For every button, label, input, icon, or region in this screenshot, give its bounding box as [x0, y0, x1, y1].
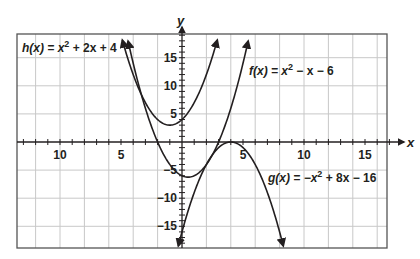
y-tick-label: 5: [170, 107, 177, 121]
h-function-label: h(x) = x2 + 2x + 4: [22, 39, 117, 55]
x-tick-label: 5: [118, 148, 125, 162]
f-function-label: f(x) = x2 − x − 6: [249, 62, 334, 78]
y-axis-label: y: [176, 13, 185, 28]
f-curve: [128, 41, 248, 177]
x-tick-label: 10: [53, 148, 67, 162]
x-tick-label: 10: [297, 148, 311, 162]
function-graph: 1055101515105−5−10−15 x y h(x) = x2 + 2x…: [0, 0, 420, 259]
y-tick-label: 15: [164, 51, 178, 65]
x-axis-label: x: [406, 135, 415, 150]
y-tick-label: −10: [157, 191, 178, 205]
y-tick-label: 10: [164, 79, 178, 93]
y-tick-label: −15: [157, 219, 178, 233]
x-tick-label: 15: [358, 148, 372, 162]
g-function-label: g(x) = −x2 + 8x − 16: [267, 169, 377, 185]
